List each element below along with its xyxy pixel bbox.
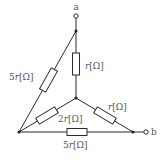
resistor-body <box>67 129 87 136</box>
node-left <box>18 131 21 134</box>
resistor-body <box>36 107 58 124</box>
circuit-diagram: a r[Ω] 5r[Ω] 2r[Ω] r[Ω] 5r[Ω <box>0 0 165 162</box>
resistor-body <box>73 53 80 75</box>
resistor-center-left-label: 2r[Ω] <box>58 114 83 124</box>
terminal-b <box>144 130 148 134</box>
terminal-a <box>74 14 78 18</box>
terminal-a-label: a <box>74 2 80 12</box>
resistor-left-diagonal-label: 5r[Ω] <box>9 72 34 82</box>
resistor-bottom <box>19 129 133 136</box>
resistor-bottom-label: 5r[Ω] <box>63 140 88 150</box>
resistor-body <box>40 68 58 92</box>
resistor-top-vertical <box>73 31 80 98</box>
resistor-center-right-label: r[Ω] <box>108 102 127 112</box>
terminal-b-label: b <box>151 127 157 137</box>
resistor-top-vertical-label: r[Ω] <box>85 61 104 71</box>
